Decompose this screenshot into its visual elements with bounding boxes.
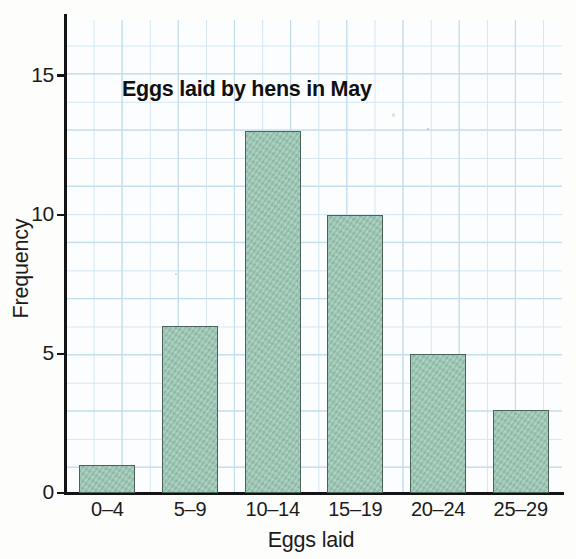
scan-speck xyxy=(175,273,177,275)
bar-0-4[interactable] xyxy=(79,465,135,493)
x-tick-label-5-9: 5–9 xyxy=(149,498,232,521)
histogram-screenshot: 051015 0–45–910–1415–1920–2425–29 Eggs l… xyxy=(0,0,576,559)
bar-5-9[interactable] xyxy=(162,326,218,493)
scan-speck xyxy=(427,128,429,130)
x-tick-label-15-19: 15–19 xyxy=(314,498,397,521)
y-tick-0 xyxy=(57,492,67,494)
x-axis-line xyxy=(64,492,564,495)
y-tick-label-15: 15 xyxy=(14,63,54,87)
y-axis-line xyxy=(64,14,67,495)
bar-25-29[interactable] xyxy=(493,410,549,493)
chart-title: Eggs laid by hens in May xyxy=(122,77,372,102)
bar-15-19[interactable] xyxy=(327,215,383,493)
x-tick-label-0-4: 0–4 xyxy=(66,498,149,521)
x-axis-title: Eggs laid xyxy=(0,528,576,553)
y-tick-15 xyxy=(57,74,67,76)
scan-speck xyxy=(392,113,395,117)
x-tick-label-20-24: 20–24 xyxy=(397,498,480,521)
bar-10-14[interactable] xyxy=(245,131,301,493)
y-axis-title: Frequency xyxy=(9,174,34,364)
scan-speck xyxy=(163,375,166,378)
x-tick-label-10-14: 10–14 xyxy=(231,498,314,521)
y-tick-10 xyxy=(57,214,67,216)
bar-20-24[interactable] xyxy=(410,354,466,493)
x-tick-label-25-29: 25–29 xyxy=(479,498,562,521)
y-tick-5 xyxy=(57,353,67,355)
y-tick-label-0: 0 xyxy=(14,480,54,504)
